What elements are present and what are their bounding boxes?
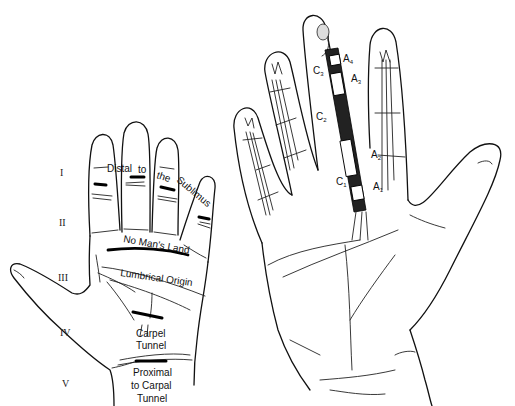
label-c3: C3: [313, 65, 324, 77]
label-a3: A3: [351, 73, 362, 85]
label-c1: C1: [336, 176, 347, 188]
zone-iii: III: [58, 272, 68, 283]
label-to-carpal: to Carpal: [131, 380, 172, 391]
label-tunnel-2: Tunnel: [137, 393, 167, 404]
label-no-mans-land: No Man's Land: [123, 233, 191, 255]
label-a2: A2: [371, 149, 382, 161]
zone-iv: IV: [60, 327, 71, 338]
right-hand-outline: [234, 15, 501, 406]
label-proximal: Proximal: [133, 367, 172, 378]
zone-i: I: [60, 167, 63, 178]
label-sublimus: Sublimus: [175, 174, 214, 209]
label-the: the: [155, 169, 172, 184]
label-tunnel: Tunnel: [136, 340, 166, 351]
label-distal: Distal: [107, 163, 132, 174]
zone-ii: II: [59, 217, 66, 228]
label-lumbrical-origin: Lumbrical Origin: [120, 267, 194, 288]
label-c2: C2: [316, 111, 327, 123]
zone-numerals: I II III IV V: [58, 167, 71, 389]
label-carpel: Carpel: [136, 328, 165, 339]
hand-diagram: Distal to the Sublimus No Man's Land Lum…: [0, 0, 515, 406]
label-a4: A4: [343, 53, 354, 65]
zone-v: V: [62, 378, 70, 389]
label-to: to: [138, 164, 147, 175]
